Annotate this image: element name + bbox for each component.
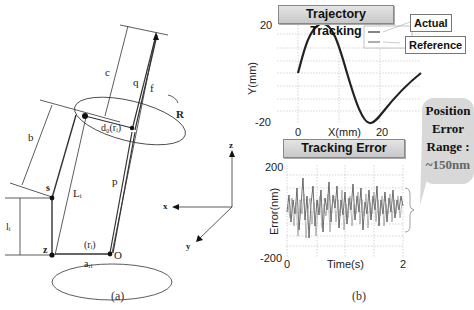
x-axis-label-time: Time(s) bbox=[327, 259, 364, 270]
label-R: R bbox=[176, 109, 184, 120]
label-p: p bbox=[112, 176, 118, 187]
y-tick-200: 200 bbox=[265, 162, 283, 173]
label-z-point: z bbox=[43, 245, 47, 255]
label-O: O bbox=[114, 250, 122, 261]
y-tick-neg200: -200 bbox=[260, 253, 282, 264]
tracking-error-title: Tracking Error bbox=[283, 139, 405, 158]
x-tick-20: 20 bbox=[376, 127, 388, 138]
caption-b: (b) bbox=[352, 289, 366, 304]
axis-label-x: x bbox=[163, 202, 168, 211]
label-rb: (rᵢ) bbox=[84, 240, 96, 250]
axis-label-y: y bbox=[186, 242, 191, 251]
y-axis-label: Y(mm) bbox=[247, 62, 258, 95]
x-tick-0: 0 bbox=[295, 127, 301, 138]
y-tick-neg20: -20 bbox=[255, 117, 271, 128]
x-tick-time-2: 2 bbox=[400, 259, 406, 270]
label-b: b bbox=[28, 132, 34, 143]
caption-a: (a) bbox=[111, 289, 124, 304]
label-q: q bbox=[133, 77, 139, 88]
callout-line-3: Range : bbox=[422, 138, 474, 156]
mechanism-geometry-drawing bbox=[0, 0, 240, 310]
label-d: d₀(rᵢ) bbox=[101, 123, 121, 133]
label-l: lᵢ bbox=[6, 222, 10, 232]
label-s: s bbox=[46, 183, 50, 193]
panel-b-plots: Trajectory Tracking Actual Reference 20 … bbox=[240, 0, 465, 310]
axis-label-z: z bbox=[229, 141, 233, 150]
callout-line-2: Error bbox=[422, 120, 474, 138]
y-axis-label-error: Error(nm) bbox=[269, 188, 280, 235]
callout-line-1: Position bbox=[422, 102, 474, 120]
label-a: aᵣᵢ bbox=[84, 259, 92, 269]
label-L: Lᵢ bbox=[73, 188, 82, 199]
legend-actual: Actual bbox=[410, 14, 452, 32]
trajectory-chart-title: Trajectory Tracking bbox=[278, 5, 394, 24]
callout-line-4: ~150nm bbox=[422, 156, 474, 174]
label-f: f bbox=[150, 83, 154, 94]
label-c: c bbox=[105, 67, 110, 78]
x-tick-time-0: 0 bbox=[284, 259, 290, 270]
panel-a-diagram: c q f R b d₀(rᵢ) s Lᵢ p lᵢ z (rᵢ) aᵣᵢ O … bbox=[0, 0, 240, 310]
x-axis-label: X(mm) bbox=[328, 127, 361, 138]
position-error-callout: Position Error Range : ~150nm bbox=[422, 98, 474, 184]
legend-reference: Reference bbox=[405, 36, 466, 54]
y-tick-20: 20 bbox=[260, 20, 272, 31]
